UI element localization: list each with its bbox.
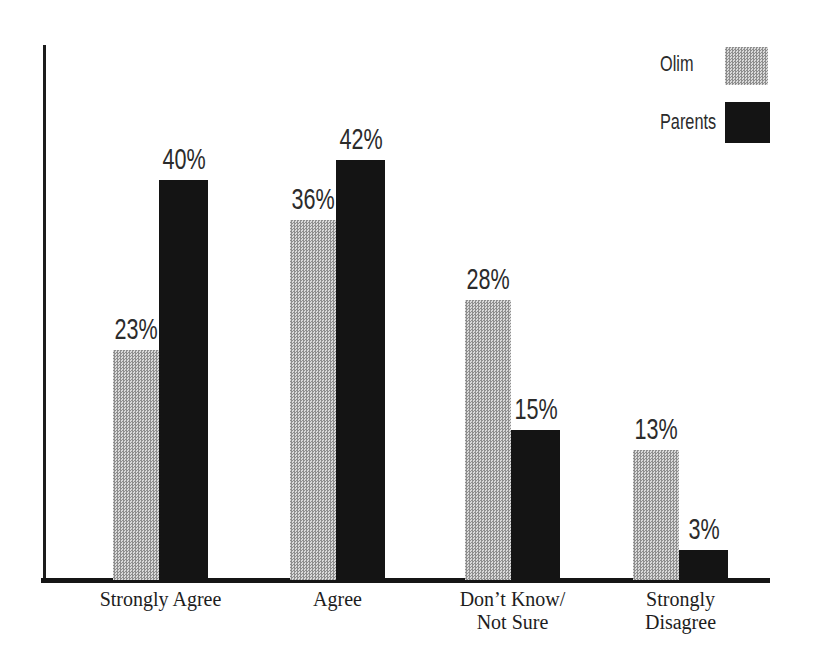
bar-olim-strongly-agree bbox=[113, 350, 159, 580]
bar-olim-agree bbox=[290, 220, 336, 580]
bar-olim-don-t-know-not-sure bbox=[465, 300, 511, 580]
legend-swatch-olim bbox=[725, 47, 768, 85]
bar-parents-don-t-know-not-sure bbox=[511, 430, 560, 580]
legend-label-parents: Parents bbox=[660, 110, 716, 134]
value-label-parents-strongly-agree: 40% bbox=[148, 144, 220, 174]
value-label-olim-strongly-disagree: 13% bbox=[620, 414, 692, 444]
bar-parents-strongly-agree bbox=[159, 180, 208, 580]
bar-parents-strongly-disagree bbox=[679, 550, 728, 580]
value-label-parents-strongly-disagree: 3% bbox=[668, 514, 740, 544]
legend-swatch-parents bbox=[725, 102, 770, 143]
x-label-strongly-disagree: StronglyDisagree bbox=[581, 588, 781, 634]
legend-label-olim: Olim bbox=[660, 52, 693, 76]
x-label-strongly-agree: Strongly Agree bbox=[61, 588, 261, 611]
bar-parents-agree bbox=[336, 160, 385, 580]
value-label-parents-don-t-know-not-sure: 15% bbox=[500, 394, 572, 424]
value-label-parents-agree: 42% bbox=[325, 124, 397, 154]
bar-chart: 23%36%28%13%40%42%15%3% Strongly AgreeAg… bbox=[0, 0, 813, 662]
y-axis-line bbox=[43, 45, 46, 582]
value-label-olim-don-t-know-not-sure: 28% bbox=[452, 264, 524, 294]
x-label-agree: Agree bbox=[238, 588, 438, 611]
